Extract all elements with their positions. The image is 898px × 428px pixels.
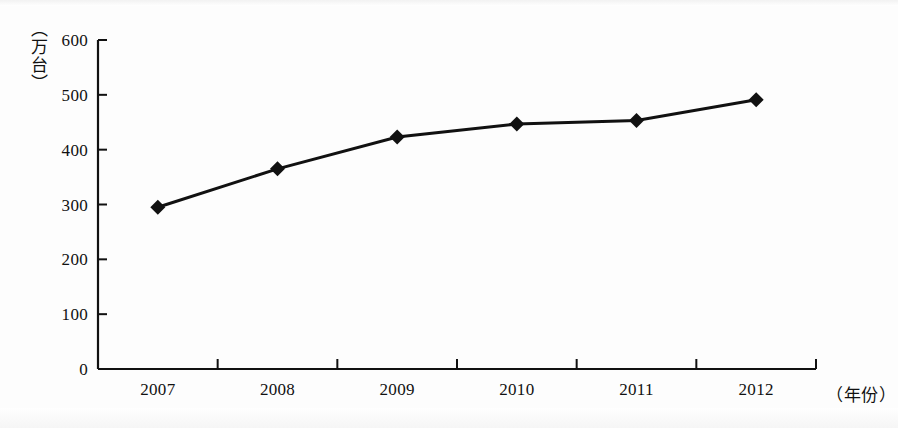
x-axis-tick-label: 2009 (380, 381, 415, 398)
data-point-marker (749, 92, 764, 107)
data-series-line (150, 92, 763, 214)
line-chart-plot (0, 0, 898, 428)
x-axis-tick-label: 2008 (260, 381, 295, 398)
data-point-marker (150, 200, 165, 215)
x-axis-tick-label: 2007 (140, 381, 175, 398)
y-axis-tick-label: 400 (34, 141, 88, 158)
series-polyline (158, 100, 756, 207)
x-axis-tick-marks (218, 359, 816, 369)
data-point-marker (629, 113, 644, 128)
y-axis-tick-label: 600 (34, 32, 88, 49)
axis-lines (98, 40, 816, 369)
data-point-marker (390, 130, 405, 145)
series-markers (150, 92, 763, 214)
x-axis-tick-label: 2010 (499, 381, 534, 398)
data-point-marker (270, 161, 285, 176)
y-axis-tick-label: 500 (34, 86, 88, 103)
x-axis-tick-label: 2012 (739, 381, 774, 398)
data-point-marker (509, 116, 524, 131)
y-axis-tick-label: 200 (34, 251, 88, 268)
y-axis-tick-label: 100 (34, 306, 88, 323)
y-axis-tick-marks (98, 40, 107, 314)
y-axis-tick-label: 0 (34, 361, 88, 378)
x-axis-tick-label: 2011 (619, 381, 654, 398)
y-axis-tick-label: 300 (34, 196, 88, 213)
chart-figure: （万台） （年份） 010020030040050060020072008200… (0, 0, 898, 428)
